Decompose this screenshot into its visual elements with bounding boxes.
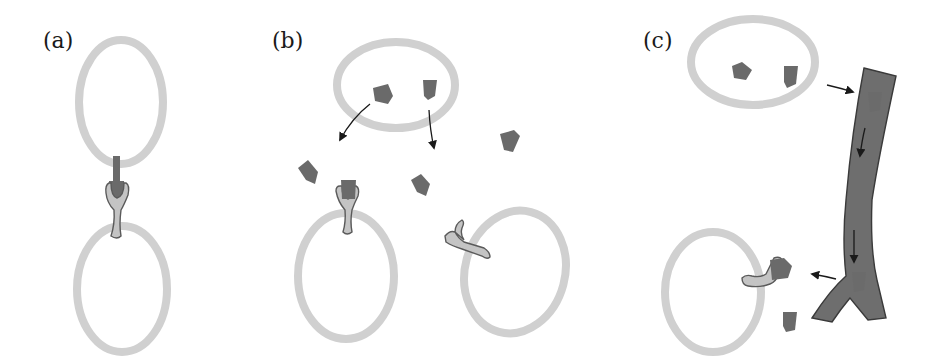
panel-a: [77, 40, 167, 352]
panel-b: [298, 42, 579, 345]
signal-molecule-icon: [500, 130, 520, 152]
cell-target-c: [665, 232, 761, 352]
signal-molecule-icon: [783, 312, 797, 332]
cell-signaling-a: [79, 40, 163, 164]
arrow-icon: [812, 274, 836, 279]
signal-molecule-icon: [770, 258, 792, 280]
signal-molecule-icon: [298, 160, 318, 184]
signal-molecule-icon: [411, 174, 430, 196]
cell-target-a: [77, 226, 167, 352]
signal-in-blood-icon: [868, 92, 882, 112]
signal-molecule-icon: [784, 66, 798, 88]
signal-molecule-icon: [423, 80, 437, 100]
arrow-icon: [827, 85, 853, 92]
cell-target-b2: [451, 199, 580, 345]
cell-secreting-b: [337, 42, 455, 128]
panel-c: [665, 19, 896, 352]
signal-molecule-icon: [373, 84, 393, 104]
signal-molecule-icon: [341, 180, 356, 199]
signal-molecule-icon: [732, 62, 752, 80]
signal-in-blood-icon: [852, 272, 866, 292]
cell-secreting-c: [691, 19, 815, 105]
signaling-diagram: [0, 0, 933, 358]
